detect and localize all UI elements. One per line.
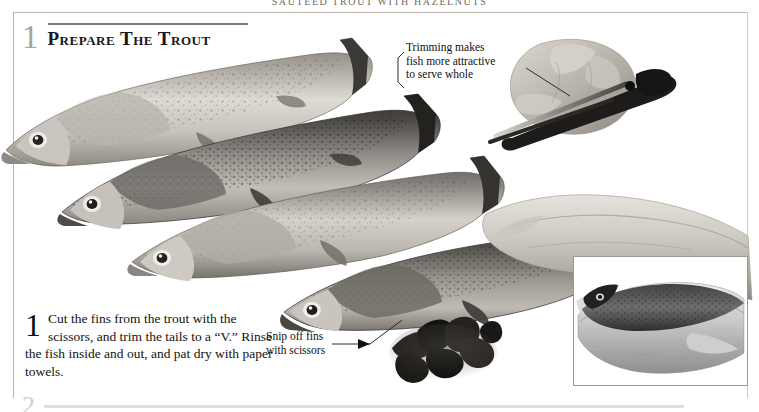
step-title: Prepare the Trout <box>48 29 248 49</box>
trout-1 <box>1 38 372 166</box>
trout-3 <box>127 156 504 281</box>
page-rule-left <box>13 12 14 398</box>
running-head: Sautéed Trout with Hazelnuts <box>0 0 759 7</box>
next-step-heading: 2 <box>22 396 684 412</box>
step-heading-rule <box>48 23 248 25</box>
next-step-number: 2 <box>22 396 44 412</box>
inset-photo <box>574 257 747 385</box>
page-rule-top <box>13 12 747 13</box>
step-heading: 1 Prepare the Trout <box>22 22 248 52</box>
trout-2 <box>57 94 440 229</box>
snip-callout: Snip off fins with scissors <box>266 330 358 357</box>
instruction-number: 1 <box>25 310 48 338</box>
scissors-hand <box>510 39 635 134</box>
instruction-block: 1 Cut the fins from the trout with the s… <box>25 310 273 380</box>
trimming-callout: Trimming makes fish more attractive to s… <box>406 41 528 82</box>
instruction-text: Cut the fins from the trout with the sci… <box>25 310 273 380</box>
next-step-rule <box>44 405 684 408</box>
fin-pile <box>389 317 502 383</box>
step-number: 1 <box>22 22 48 52</box>
trimming-callout-pointer <box>524 62 594 108</box>
inset-photo-frame <box>573 256 748 386</box>
cookbook-page: Sautéed Trout with Hazelnuts 1 Prepare t… <box>0 0 759 412</box>
